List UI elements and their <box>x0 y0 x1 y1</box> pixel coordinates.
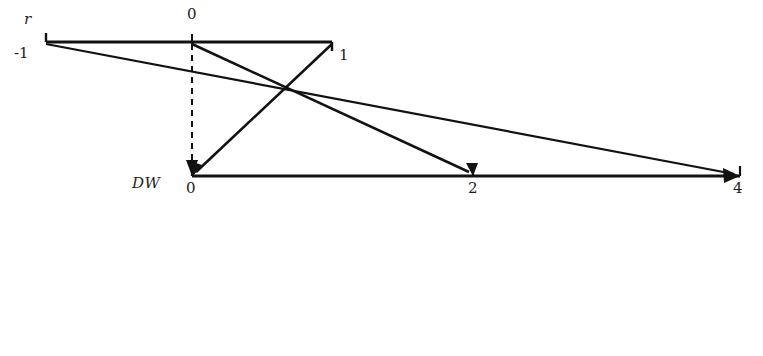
top-tick-label-1: 1 <box>339 46 349 64</box>
arrowhead-at-dw-2 <box>466 163 478 176</box>
bottom-tick-label-2: 2 <box>468 179 478 197</box>
bottom-tick-label-4: 4 <box>733 179 743 197</box>
dw-formula: = N ∑ t=2 ^ut2 −2 N ∑ t=2 <box>0 228 763 356</box>
top-axis-group <box>46 33 332 51</box>
arrowheads <box>186 160 740 183</box>
bottom-tick-label-0: 0 <box>186 179 196 197</box>
bottom-axis-name-label: DW <box>132 174 160 192</box>
top-tick-label-0: 0 <box>187 5 197 23</box>
r-to-dw-mapping-diagram <box>0 0 763 220</box>
mapping-line-0-to-2 <box>192 44 469 172</box>
top-axis-name-label: r <box>24 10 32 28</box>
durbin-watson-figure: r DW -1 0 1 0 2 4 = N ∑ t=2 ^ut2 −2 <box>0 0 763 356</box>
top-tick-label-neg1: -1 <box>14 44 29 62</box>
mapping-line-1-to-0 <box>196 44 332 172</box>
mapping-lines <box>46 44 734 174</box>
mapping-line-neg1-to-4 <box>46 44 734 174</box>
